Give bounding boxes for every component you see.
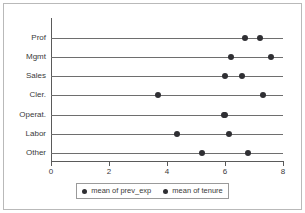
dot-plot-figure: ProfMgmtSalesCler.Operat.LaborOther 0246… [0, 0, 305, 213]
x-axis-tick-label: 2 [107, 167, 111, 177]
x-axis-tick-label: 8 [281, 167, 285, 177]
category-rule [51, 76, 283, 77]
category-axis-label: Cler. [30, 89, 46, 100]
x-axis-tick-label: 0 [49, 167, 53, 177]
chart-legend: mean of prev_expmean of tenure [76, 183, 229, 199]
category-rule [51, 57, 283, 58]
legend-label: mean of prev_exp [91, 186, 151, 196]
data-point-marker [268, 54, 274, 60]
data-point-marker [245, 150, 251, 156]
category-axis-label: Sales [26, 70, 46, 81]
category-rule [51, 115, 283, 116]
x-axis-tick [51, 162, 52, 166]
x-axis-tick [283, 162, 284, 166]
data-point-marker [222, 112, 228, 118]
category-axis-label: Labor [26, 128, 46, 139]
category-rule [51, 38, 283, 39]
category-axis-label: Mgmt [26, 51, 46, 62]
legend-label: mean of tenure [172, 186, 222, 196]
x-axis-tick [225, 162, 226, 166]
category-axis-label: Other [26, 147, 46, 158]
data-point-marker [155, 92, 161, 98]
legend-marker-icon [82, 189, 87, 194]
data-point-marker [174, 131, 180, 137]
legend-entry[interactable]: mean of tenure [163, 186, 222, 196]
x-axis-tick-label: 4 [165, 167, 169, 177]
data-point-marker [239, 73, 245, 79]
category-axis-label: Operat. [19, 109, 46, 120]
legend-marker-icon [163, 189, 168, 194]
plot-area: ProfMgmtSalesCler.Operat.LaborOther [51, 18, 283, 155]
category-rule [51, 134, 283, 135]
data-point-marker [260, 92, 266, 98]
data-point-marker [242, 35, 248, 41]
x-axis-tick [167, 162, 168, 166]
data-point-marker [228, 54, 234, 60]
x-axis-ticks: 02468 [51, 162, 284, 178]
category-rule [51, 95, 283, 96]
category-axis-label: Prof [31, 32, 46, 43]
data-point-marker [226, 131, 232, 137]
data-point-marker [257, 35, 263, 41]
legend-entry[interactable]: mean of prev_exp [82, 186, 151, 196]
x-axis-tick [109, 162, 110, 166]
data-point-marker [199, 150, 205, 156]
data-point-marker [222, 73, 228, 79]
x-axis-tick-label: 6 [223, 167, 227, 177]
